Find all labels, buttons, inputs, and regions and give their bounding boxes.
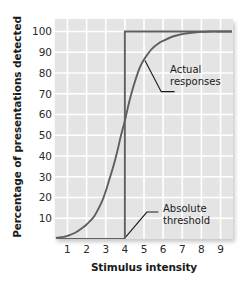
y-tick-label: 40 <box>28 151 52 161</box>
x-tick-label: 6 <box>156 243 170 255</box>
x-tick-label: 2 <box>80 243 94 255</box>
x-axis-title: Stimulus intensity <box>55 261 233 273</box>
y-tick-label: 90 <box>28 47 52 57</box>
annotation-actual-responses: Actual responses <box>170 64 221 87</box>
x-tick-label: 1 <box>60 243 74 255</box>
x-tick-label: 8 <box>194 243 208 255</box>
x-tick-label: 9 <box>214 243 228 255</box>
y-tick-label: 100 <box>28 26 52 36</box>
x-tick-label: 7 <box>175 243 189 255</box>
x-tick-label: 4 <box>118 243 132 255</box>
y-tick-label: 80 <box>28 68 52 78</box>
figure: Percentage of presentations detected 102… <box>0 0 249 283</box>
x-tick-label: 3 <box>99 243 113 255</box>
y-tick-label: 10 <box>28 213 52 223</box>
y-tick-label: 60 <box>28 109 52 119</box>
y-tick-label: 50 <box>28 130 52 140</box>
y-axis-tick-labels: 102030405060708090100 <box>20 0 52 283</box>
x-axis-tick-labels: 123456789 <box>55 243 233 259</box>
y-tick-label: 30 <box>28 172 52 182</box>
y-tick-label: 20 <box>28 192 52 202</box>
annotation-absolute-threshold: Absolute threshold <box>163 203 210 226</box>
y-tick-label: 70 <box>28 89 52 99</box>
x-tick-label: 5 <box>137 243 151 255</box>
leader-line-absolute-threshold <box>126 212 159 237</box>
